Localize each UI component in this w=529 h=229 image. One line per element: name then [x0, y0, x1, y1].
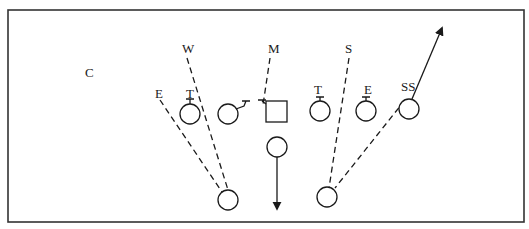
right-end-player: [356, 101, 376, 121]
fullback-player: [267, 137, 287, 157]
label-t-right: T: [314, 82, 322, 97]
left-tackle-player: [180, 104, 200, 124]
e-right-block-marker: [362, 97, 370, 101]
left-guard-player: [218, 104, 238, 124]
label-w: W: [182, 41, 195, 56]
t-right-block-marker: [316, 97, 324, 101]
label-coverage: C: [85, 65, 94, 80]
left-back-player: [218, 190, 238, 210]
label-s: S: [345, 41, 352, 56]
play-diagram: C W M S E T T E SS: [0, 0, 529, 229]
ss-deep-route-arrow: [412, 28, 442, 99]
center-block-marker: [258, 100, 266, 104]
label-e-right: E: [364, 82, 372, 97]
defenders: [180, 99, 419, 210]
s-right-back-line: [329, 58, 349, 188]
m-line: [263, 58, 270, 105]
dashed-assignment-lines: [160, 58, 405, 192]
guard-block-marker: [236, 101, 250, 109]
center-square: [266, 101, 287, 122]
label-m: M: [268, 41, 280, 56]
label-ss: SS: [401, 79, 415, 94]
strong-safety-player: [399, 99, 419, 119]
label-e-left: E: [155, 86, 163, 101]
right-tackle-player: [310, 101, 330, 121]
right-back-player: [317, 187, 337, 207]
